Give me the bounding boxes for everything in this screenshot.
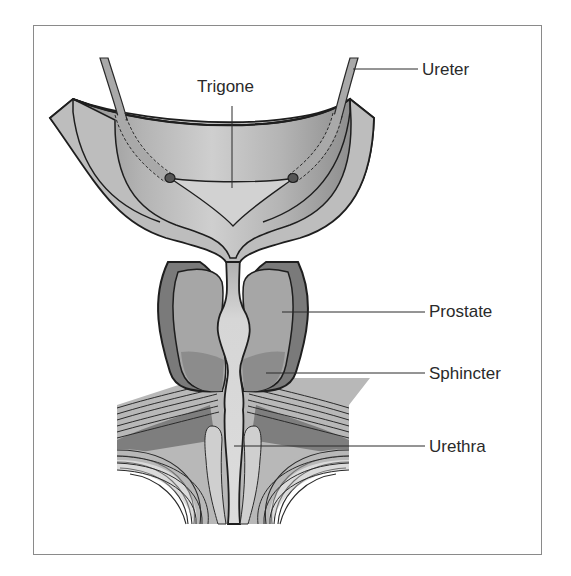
label-sphincter: Sphincter [429,365,501,382]
label-ureter: Ureter [422,61,469,78]
label-trigone: Trigone [197,78,254,95]
label-urethra: Urethra [429,438,486,455]
label-prostate: Prostate [429,303,492,320]
ureter-orifice-right [288,174,298,183]
ureter-orifice-left [165,174,175,183]
prostate-left-lobe [158,262,226,391]
anatomy-illustration [0,0,571,576]
